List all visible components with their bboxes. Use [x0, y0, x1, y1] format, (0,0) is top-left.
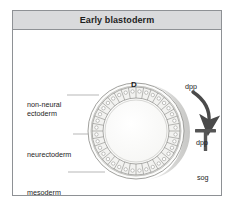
cell-nucleus [112, 162, 115, 165]
cell-nucleus [102, 107, 105, 110]
yolk-core [105, 100, 167, 162]
cell-nucleus [151, 93, 154, 96]
cell-nucleus [131, 90, 134, 93]
cell-nucleus [96, 140, 99, 143]
cell-nucleus [124, 168, 127, 171]
cell-nucleus [95, 126, 98, 129]
cell-nucleus [138, 90, 141, 93]
page-title: Early blastoderm [80, 15, 155, 25]
axis-marker-dorsal: D [131, 80, 137, 89]
cell-nucleus [151, 165, 154, 168]
cell-nucleus [157, 97, 160, 100]
cell-nucleus [98, 113, 101, 116]
cell-nucleus [106, 157, 109, 160]
axis-marker-ventral: V [132, 204, 137, 206]
cell-nucleus [157, 162, 160, 165]
cell-nucleus [106, 101, 109, 104]
cell-nucleus [145, 91, 148, 94]
cell-nucleus [118, 165, 121, 168]
cell-nucleus [138, 169, 141, 172]
cell-nucleus [118, 93, 121, 96]
label-dpp-source: dpp [185, 82, 197, 91]
cell-nucleus [102, 152, 105, 155]
cell-nucleus [174, 126, 177, 129]
cell-nucleus [162, 101, 165, 104]
label-non-neural-ectoderm-line2: ectoderm [27, 109, 57, 118]
cell-nucleus [170, 113, 173, 116]
cell-nucleus [98, 146, 101, 149]
label-non-neural-ectoderm: non-neural ectoderm [27, 100, 79, 118]
figure-panel: Early blastoderm [12, 10, 222, 196]
label-non-neural-ectoderm-line1: non-neural [27, 100, 61, 109]
figure-canvas: non-neural ectoderm neurectoderm mesoder… [13, 30, 221, 195]
cell-nucleus [95, 133, 98, 136]
cell-nucleus [174, 133, 177, 136]
cell-nucleus [173, 140, 176, 143]
dpp-gradient-arrow [193, 92, 209, 122]
cell-nucleus [162, 157, 165, 160]
cell-nucleus [145, 168, 148, 171]
label-dpp-target: dpp [196, 138, 208, 147]
cell-nucleus [112, 97, 115, 100]
cell-nucleus [96, 119, 99, 122]
label-neurectoderm: neurectoderm [27, 150, 71, 159]
embryo-group [88, 83, 190, 180]
cell-nucleus [167, 107, 170, 110]
cell-nucleus [124, 91, 127, 94]
label-sog-inhibitor: sog [197, 173, 209, 182]
cell-nucleus [170, 146, 173, 149]
label-mesoderm: mesoderm [27, 188, 61, 197]
figure-title-bar: Early blastoderm [13, 11, 221, 30]
cell-nucleus [173, 119, 176, 122]
cell-nucleus [131, 169, 134, 172]
cell-nucleus [167, 152, 170, 155]
figure-page: Early blastoderm [0, 0, 235, 206]
